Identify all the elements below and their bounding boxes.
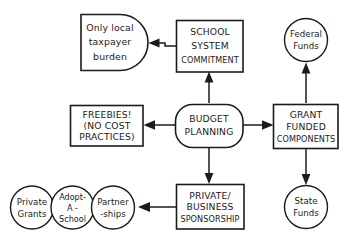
node-label-line: PLANNING: [185, 126, 234, 137]
node-label-line: SCHOOL: [190, 26, 230, 37]
edge-grant-funded-to-federal-funds: [302, 63, 311, 104]
node-freebies-no-cost-practices[interactable]: FREEBIES! (NO COST PRACTICES): [71, 106, 144, 147]
edge-grant-funded-to-state-funds: [302, 149, 311, 185]
node-label-line: PRACTICES): [79, 131, 135, 142]
node-label-line: -ships: [100, 209, 126, 219]
node-label-line: SYSTEM: [191, 40, 229, 51]
edge-school-system-to-taxpayer-burden: [149, 39, 177, 48]
node-federal-funds[interactable]: Federal Funds: [285, 19, 328, 62]
node-label-line: Private: [17, 197, 47, 207]
edge-budget-to-grant-funded: [243, 120, 274, 130]
node-budget-planning[interactable]: BUDGET PLANNING: [176, 105, 244, 148]
node-label-line: GRANT: [290, 109, 323, 120]
node-label-line: taxpayer: [89, 36, 132, 47]
node-label-line: Funds: [293, 41, 319, 51]
node-label-line: Grants: [17, 209, 47, 219]
node-label-line: A -: [67, 203, 78, 213]
node-label-line: BUDGET: [189, 113, 229, 124]
node-private-grants[interactable]: Private Grants: [11, 186, 54, 229]
node-label-line: School: [59, 214, 86, 224]
node-label-line: Adopt-: [59, 192, 86, 202]
edge-budget-to-freebies: [144, 120, 176, 130]
node-label-line: State: [295, 196, 318, 206]
node-only-local-taxpayer-burden[interactable]: Only local taxpayer burden: [81, 15, 148, 71]
node-label-line: COMPONENTS: [277, 134, 336, 144]
diagram-canvas: Only local taxpayer burden SCHOOL SYSTEM…: [0, 0, 353, 244]
node-school-system-commitment[interactable]: SCHOOL SYSTEM COMMITMENT: [177, 21, 244, 73]
node-adopt-a-school[interactable]: Adopt- A - School: [51, 186, 94, 229]
node-grant-funded-components[interactable]: GRANT FUNDED COMPONENTS: [274, 105, 339, 149]
node-label-line: (NO COST: [84, 120, 131, 131]
node-label-line: SPONSORSHIP: [180, 214, 239, 224]
node-private-business-sponsorship[interactable]: PRIVATE/ BUSINESS SPONSORSHIP: [177, 185, 245, 230]
flowchart-svg: Only local taxpayer burden SCHOOL SYSTEM…: [0, 0, 353, 244]
node-partnerships[interactable]: Partner -ships: [92, 186, 135, 229]
edge-budget-to-school-system: [205, 72, 214, 104]
edge-private-business-to-partnerships: [138, 202, 176, 212]
node-label-line: burden: [93, 51, 127, 62]
node-label-line: Federal: [290, 29, 322, 39]
node-label-line: Only local: [86, 22, 133, 33]
node-label-line: COMMITMENT: [181, 55, 238, 65]
node-label-line: Partner: [97, 197, 129, 207]
node-label-line: Funds: [293, 208, 319, 218]
node-state-funds[interactable]: State Funds: [285, 186, 328, 229]
node-label-line: PRIVATE/: [189, 190, 231, 201]
node-label-line: FREEBIES!: [83, 109, 132, 120]
node-label-line: BUSINESS: [186, 201, 233, 212]
node-label-line: FUNDED: [286, 121, 326, 132]
edge-budget-to-private-business: [205, 148, 214, 184]
